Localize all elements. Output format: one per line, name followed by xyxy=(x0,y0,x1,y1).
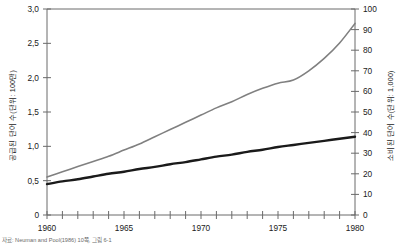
y-tick-right-8: 80 xyxy=(363,46,389,54)
source-caption: 자료: Neuman and Pool(1986) 10쪽, 그림 6-1 xyxy=(2,237,112,243)
x-tick-2: 1970 xyxy=(181,224,221,232)
chart-figure: 공급된 단어 수(단위: 100만) 소비된 단어 수(단위: 1,000) 0… xyxy=(0,0,401,248)
y-tick-left-1: 0,5 xyxy=(13,177,39,185)
y-tick-right-9: 90 xyxy=(363,26,389,34)
y-tick-left-4: 2,0 xyxy=(13,74,39,82)
y-tick-left-5: 2,5 xyxy=(13,39,39,47)
x-tick-0: 1960 xyxy=(27,224,67,232)
y-tick-right-1: 10 xyxy=(363,190,389,198)
series-line-1 xyxy=(47,23,355,176)
x-tick-4: 1980 xyxy=(335,224,375,232)
y-tick-right-0: 0 xyxy=(363,211,389,219)
y-tick-left-3: 1,5 xyxy=(13,108,39,116)
y-tick-right-6: 60 xyxy=(363,87,389,95)
y-tick-right-2: 20 xyxy=(363,170,389,178)
x-tick-3: 1975 xyxy=(258,224,298,232)
y-tick-left-2: 1,0 xyxy=(13,142,39,150)
y-tick-right-3: 30 xyxy=(363,149,389,157)
x-tick-1: 1965 xyxy=(104,224,144,232)
data-series xyxy=(47,23,355,184)
series-line-2 xyxy=(47,137,355,184)
y-tick-right-10: 100 xyxy=(363,5,389,13)
y-tick-right-7: 70 xyxy=(363,67,389,75)
axis-ticks xyxy=(43,9,359,219)
axis-frame xyxy=(47,9,355,215)
y-tick-right-5: 50 xyxy=(363,108,389,116)
plot-area xyxy=(0,0,401,248)
y-tick-left-0: 0 xyxy=(13,211,39,219)
y-tick-right-4: 40 xyxy=(363,129,389,137)
y-tick-left-6: 3,0 xyxy=(13,5,39,13)
